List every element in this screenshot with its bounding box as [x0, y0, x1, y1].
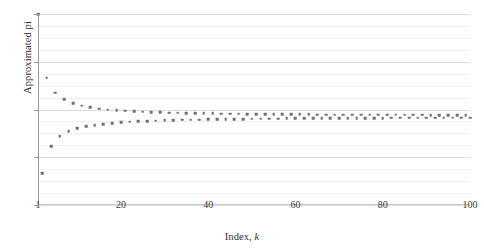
data-point: [242, 118, 245, 121]
data-point: [447, 114, 450, 117]
data-point: [251, 118, 254, 121]
data-point: [72, 102, 75, 105]
data-point: [421, 114, 424, 117]
data-point: [137, 120, 140, 123]
data-point: [220, 112, 223, 115]
data-point: [211, 112, 214, 115]
data-point: [216, 118, 219, 121]
data-point: [203, 112, 206, 115]
data-point: [146, 120, 149, 123]
y-axis-line: [38, 14, 39, 205]
y-axis-tick: [34, 110, 38, 111]
data-point: [338, 117, 341, 120]
data-point: [194, 112, 197, 115]
data-point: [425, 116, 428, 119]
data-point: [381, 117, 384, 120]
x-axis-tick-label: 80: [363, 199, 403, 210]
x-axis-tick-label: 1: [18, 199, 58, 210]
pi-approximation-chart: Approximated pi Index, k 2.42.83.23.64.0…: [0, 0, 484, 250]
data-point: [355, 117, 358, 120]
data-point: [150, 111, 153, 114]
data-point: [128, 120, 131, 123]
data-point: [207, 118, 210, 121]
data-point: [320, 117, 323, 120]
data-point: [264, 113, 267, 116]
x-axis-tick-label: 100: [450, 199, 484, 210]
data-point: [181, 119, 184, 122]
data-point: [229, 112, 232, 115]
grid-line-horizontal: [38, 14, 470, 15]
data-point: [259, 117, 262, 120]
data-point: [329, 117, 332, 120]
data-point: [115, 109, 118, 112]
x-axis-tick-label: 40: [188, 199, 228, 210]
data-point: [111, 122, 114, 125]
data-point: [299, 113, 302, 116]
data-point: [303, 117, 306, 120]
data-point: [368, 113, 371, 116]
plot-area: [38, 14, 470, 205]
data-point: [312, 117, 315, 120]
data-point: [281, 113, 284, 116]
data-point: [390, 117, 393, 120]
data-point: [54, 91, 57, 94]
data-point: [307, 113, 310, 116]
data-point: [325, 113, 328, 116]
data-point: [316, 113, 319, 116]
grid-line-horizontal: [38, 133, 470, 134]
grid-line-horizontal: [38, 157, 470, 158]
data-point: [272, 113, 275, 116]
data-point: [50, 145, 53, 148]
data-point: [102, 123, 105, 126]
grid-line-horizontal: [38, 169, 470, 170]
data-point: [351, 113, 354, 116]
data-point: [120, 121, 123, 124]
data-point: [399, 117, 402, 120]
grid-line-horizontal: [38, 74, 470, 75]
y-axis-label: Approximated pi: [22, 0, 33, 133]
data-point: [408, 117, 411, 120]
grid-line-horizontal: [38, 145, 470, 146]
data-point: [159, 111, 162, 114]
data-point: [268, 117, 271, 120]
data-point: [189, 118, 192, 121]
data-point: [395, 114, 398, 117]
y-axis-tick: [34, 157, 38, 158]
x-axis-tick-label: 60: [275, 199, 315, 210]
data-point: [67, 130, 70, 133]
data-point: [277, 117, 280, 120]
data-point: [168, 111, 171, 114]
data-point: [285, 117, 288, 120]
data-point: [224, 118, 227, 121]
grid-line-horizontal: [38, 62, 470, 63]
data-point: [98, 107, 101, 110]
y-axis-tick: [34, 62, 38, 63]
data-point: [76, 127, 79, 130]
data-point: [133, 110, 136, 113]
grid-line-horizontal: [38, 38, 470, 39]
data-point: [89, 106, 92, 109]
data-point: [456, 114, 459, 117]
x-axis-label-text: Index,: [225, 231, 255, 242]
data-point: [85, 125, 88, 128]
data-point: [364, 117, 367, 120]
grid-line-horizontal: [38, 193, 470, 194]
data-point: [360, 113, 363, 116]
data-point: [451, 116, 454, 119]
data-point: [41, 172, 44, 175]
data-point: [416, 117, 419, 120]
data-point: [438, 114, 441, 117]
data-point: [443, 116, 446, 119]
data-point: [124, 110, 127, 113]
grid-line-horizontal: [38, 86, 470, 87]
data-point: [255, 113, 258, 116]
data-point: [45, 76, 48, 79]
y-axis-tick: [34, 14, 38, 15]
data-point: [172, 119, 175, 122]
data-point: [469, 116, 472, 119]
x-axis-tick-label: 20: [101, 199, 141, 210]
data-point: [155, 119, 158, 122]
data-point: [246, 113, 249, 116]
grid-line-horizontal: [38, 98, 470, 99]
data-point: [176, 112, 179, 115]
